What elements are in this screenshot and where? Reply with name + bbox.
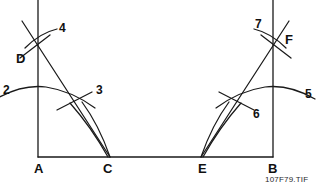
arc-label-4: 4 (59, 22, 66, 34)
point-label-b: B (268, 162, 277, 175)
construction-drawing (0, 0, 319, 188)
arc-3-secondary (82, 102, 110, 157)
figure-caption: 107F79.TIF (265, 175, 308, 184)
arc-label-2: 2 (3, 84, 10, 96)
arc-5-from-b (216, 87, 315, 109)
arc-label-5: 5 (305, 88, 312, 100)
geometric-construction-figure: A C E B D F 2 3 4 5 6 7 107F79.TIF (0, 0, 319, 188)
point-label-e: E (198, 162, 207, 175)
arc-label-6: 6 (253, 108, 260, 120)
right-construction (201, 21, 315, 157)
point-label-a: A (34, 162, 43, 175)
frame-lines (38, 0, 273, 157)
left-construction (0, 21, 110, 157)
arc-6-secondary (201, 102, 229, 157)
arc-7-upper (254, 29, 286, 48)
point-label-f: F (285, 33, 293, 46)
arc-label-7: 7 (255, 18, 262, 30)
arc-label-3: 3 (96, 84, 103, 96)
arc-4-upper (25, 29, 57, 48)
diagonal-through-f-to-e (201, 21, 289, 157)
point-label-d: D (16, 52, 25, 65)
point-label-c: C (103, 162, 112, 175)
